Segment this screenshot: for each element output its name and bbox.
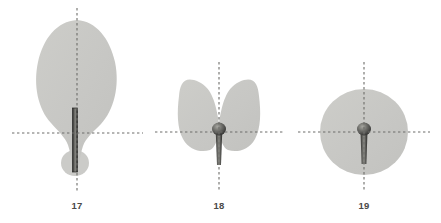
specimen-18-group (155, 62, 283, 192)
leaf-diagram-canvas (0, 0, 441, 223)
specimen-17-group (12, 8, 143, 191)
leaf-diagram-figure: 17 18 19 (0, 0, 441, 223)
specimen-19-group (298, 62, 430, 192)
specimen-18-label: 18 (199, 200, 239, 211)
specimen-19-label: 19 (344, 200, 384, 211)
specimen-17-label: 17 (57, 200, 97, 211)
